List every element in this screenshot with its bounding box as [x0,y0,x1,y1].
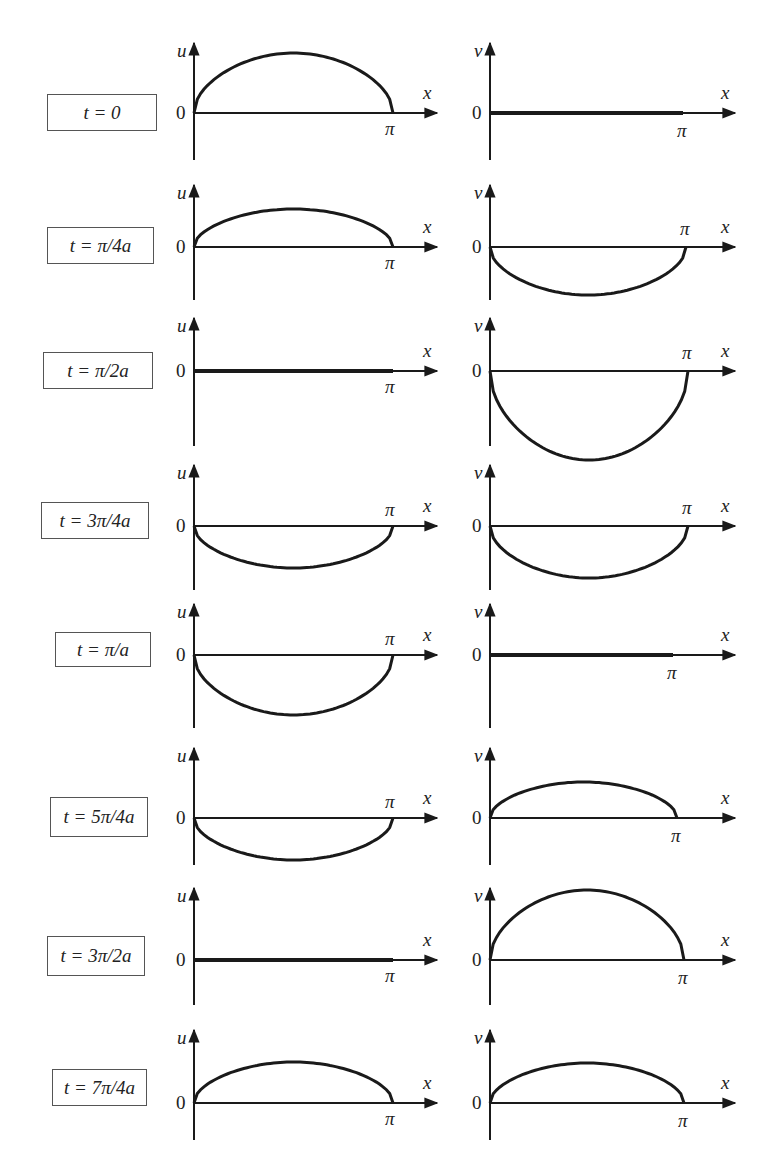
origin-label: 0 [472,808,482,827]
pi-tick-label: π [385,253,395,272]
time-label-box: t = 3π/2a [47,936,145,976]
x-axis-label: x [423,1073,431,1092]
x-axis-label: x [423,341,431,360]
origin-label: 0 [472,103,482,122]
origin-label: 0 [472,1093,482,1112]
x-axis-label: x [423,930,431,949]
v-axis-label: v [474,886,482,905]
time-label-box: t = π/4a [47,227,154,264]
origin-label: 0 [472,237,482,256]
time-label-box: t = π/a [55,632,151,667]
v-axis-label: v [474,463,482,482]
x-axis-label: x [721,625,729,644]
origin-label: 0 [176,361,186,380]
pi-tick-label: π [682,343,692,362]
pi-tick-label: π [385,500,395,519]
x-axis-label: x [423,625,431,644]
origin-label: 0 [472,950,482,969]
pi-tick-label: π [667,663,677,682]
u-curve [194,818,393,860]
v-curve [490,782,677,818]
pi-tick-label: π [678,1111,688,1130]
v-axis-label: v [474,1028,482,1047]
origin-label: 0 [472,361,482,380]
pi-tick-label: π [385,1109,395,1128]
v-axis-label: v [474,41,482,60]
u-curve [194,53,393,113]
origin-label: 0 [176,237,186,256]
v-curve [490,890,684,960]
time-label-box: t = π/2a [43,352,153,389]
pi-tick-label: π [680,219,690,238]
pi-tick-label: π [385,629,395,648]
pi-tick-label: π [671,826,681,845]
u-axis-label: u [177,41,187,60]
x-axis-label: x [423,83,431,102]
v-curve [490,1063,684,1103]
origin-label: 0 [176,645,186,664]
x-axis-label: x [721,341,729,360]
v-axis-label: v [474,746,482,765]
x-axis-label: x [721,83,729,102]
time-label-box: t = 0 [47,94,157,131]
origin-label: 0 [176,950,186,969]
origin-label: 0 [176,516,186,535]
figure-canvas [0,0,765,1175]
x-axis-label: x [423,496,431,515]
time-label-box: t = 5π/4a [50,797,148,837]
v-axis-label: v [474,316,482,335]
pi-tick-label: π [385,119,395,138]
u-axis-label: u [177,746,187,765]
pi-tick-label: π [682,498,692,517]
x-axis-label: x [721,217,729,236]
v-curve [490,526,688,578]
u-axis-label: u [177,463,187,482]
time-label-box: t = 7π/4a [52,1069,147,1106]
origin-label: 0 [176,808,186,827]
u-axis-label: u [177,886,187,905]
pi-tick-label: π [385,966,395,985]
v-curve [490,247,686,295]
u-curve [194,655,393,715]
origin-label: 0 [176,1093,186,1112]
time-label-box: t = 3π/4a [41,502,149,539]
v-axis-label: v [474,602,482,621]
origin-label: 0 [176,103,186,122]
u-curve [194,209,393,247]
u-axis-label: u [177,602,187,621]
u-curve [194,526,393,568]
x-axis-label: x [721,930,729,949]
u-curve [194,1062,393,1103]
v-axis-label: v [474,183,482,202]
x-axis-label: x [721,788,729,807]
origin-label: 0 [472,645,482,664]
x-axis-label: x [423,217,431,236]
pi-tick-label: π [678,968,688,987]
pi-tick-label: π [385,792,395,811]
pi-tick-label: π [385,377,395,396]
u-axis-label: u [177,183,187,202]
pi-tick-label: π [677,121,687,140]
plot-grid [194,43,735,1140]
x-axis-label: x [721,496,729,515]
x-axis-label: x [721,1073,729,1092]
x-axis-label: x [423,788,431,807]
u-axis-label: u [177,1028,187,1047]
u-axis-label: u [177,316,187,335]
v-curve [490,371,688,460]
origin-label: 0 [472,516,482,535]
